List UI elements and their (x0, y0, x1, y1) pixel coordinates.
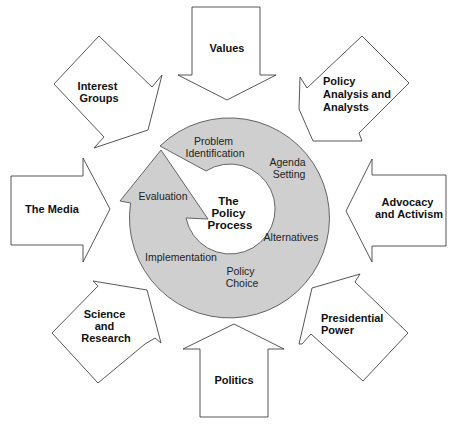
influence-interest-groups: Interest Groups (54, 36, 162, 148)
influence-policy-analysis: Policy Analysis and Analysts (299, 36, 409, 141)
influence-presidential-power: Presidential Power (299, 274, 408, 381)
stage-policy-choice: Policy Choice (226, 265, 259, 289)
up-arrow-icon (183, 324, 284, 417)
influence-politics: Politics (183, 324, 284, 417)
stage-agenda-setting: Agenda Setting (269, 156, 308, 180)
policy-process-diagram: Values Policy Analysis and Analysts Advo… (0, 0, 450, 425)
center-title: The Policy Process (208, 195, 253, 231)
influence-label: The Media (25, 203, 80, 215)
stage-problem-identification: Problem Identification (186, 135, 245, 159)
influence-science-research: Science and Research (52, 281, 161, 383)
influence-label: Interest Groups (78, 80, 121, 104)
influence-media: The Media (11, 158, 110, 262)
influence-label: Values (210, 42, 245, 54)
influence-label: Politics (214, 374, 253, 386)
influence-values: Values (178, 7, 276, 100)
influence-advocacy: Advocacy and Activism (346, 159, 446, 262)
stage-evaluation: Evaluation (138, 190, 187, 202)
stage-implementation: Implementation (145, 251, 217, 263)
influence-label: Advocacy and Activism (375, 196, 443, 220)
stage-alternatives: Alternatives (264, 231, 319, 243)
